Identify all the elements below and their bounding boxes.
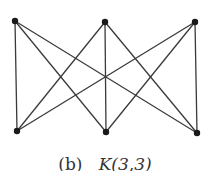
figure: (b) K(3,3) (0, 0, 210, 171)
graph-edge-t1-b1 (15, 21, 17, 131)
bipartite-graph-diagram (0, 0, 210, 171)
graph-node-b3 (194, 130, 200, 136)
caption-graph-name: K(3,3) (99, 154, 152, 171)
graph-edges (15, 21, 197, 133)
graph-node-t3 (192, 19, 198, 25)
graph-node-b2 (103, 129, 109, 135)
figure-caption: (b) K(3,3) (0, 154, 210, 171)
graph-node-t1 (12, 18, 18, 24)
caption-prefix: (b) (58, 154, 82, 171)
graph-node-b1 (14, 128, 20, 134)
graph-edge-t3-b3 (195, 22, 197, 133)
graph-node-t2 (102, 19, 108, 25)
